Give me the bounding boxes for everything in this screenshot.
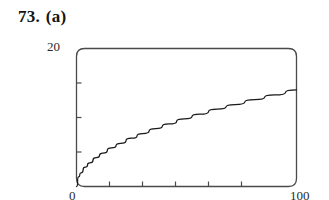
x-axis-max-label: 100 bbox=[290, 188, 310, 200]
plot-frame-border bbox=[77, 49, 297, 187]
plot-svg bbox=[0, 0, 329, 200]
plot-frame bbox=[77, 49, 297, 187]
x-axis-min-label: 0 bbox=[69, 188, 76, 200]
plot-area: 20 0 100 bbox=[0, 0, 329, 200]
data-curve bbox=[77, 90, 297, 187]
y-axis-ticks bbox=[77, 83, 82, 152]
y-axis-max-label: 20 bbox=[47, 39, 60, 54]
figure-container: 73.(a) 20 0 100 bbox=[0, 0, 329, 200]
curve-series-path bbox=[77, 90, 297, 187]
x-axis-ticks bbox=[110, 182, 242, 187]
